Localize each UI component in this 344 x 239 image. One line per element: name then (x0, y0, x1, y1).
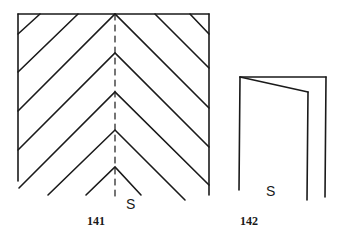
panel-inner-edge (307, 92, 308, 200)
figure-number-141: 141 (87, 214, 105, 229)
chevron-5 (86, 167, 141, 195)
chevron-partial-right-1 (190, 14, 209, 34)
chevron-3 (19, 92, 209, 188)
panel-outer-edge (325, 77, 326, 197)
chevron-partial-left-1 (18, 14, 40, 34)
figure-141 (18, 14, 209, 200)
seam-label-141: S (126, 196, 135, 212)
chevron-1 (18, 14, 209, 111)
panel-left-edge (239, 77, 240, 190)
chevron-2 (18, 53, 209, 150)
figure-142 (239, 77, 326, 200)
diagram-canvas (0, 0, 344, 239)
chevron-partial-left-2 (18, 14, 78, 72)
panel-fold-slant (240, 77, 308, 92)
seam-label-142: S (266, 183, 275, 199)
figure-number-142: 142 (240, 214, 258, 229)
chevron-partial-right-2 (155, 14, 209, 68)
